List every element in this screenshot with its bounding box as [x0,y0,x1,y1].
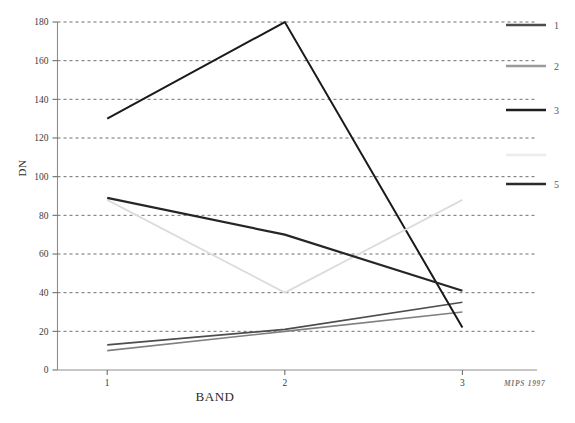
series-line-1 [107,302,462,345]
line-chart: 020406080100120140160180 123 BAND DN 123… [0,0,575,423]
legend-label-5: 5 [554,179,559,190]
watermark-label: MIPS 1997 [503,379,546,388]
y-tick-label: 180 [34,17,49,27]
y-tick-label: 40 [39,288,49,298]
y-tick-label: 120 [34,133,49,143]
y-axis-title: DN [16,159,28,176]
y-tick-label: 20 [39,327,49,337]
series-line-3 [107,22,462,327]
y-tick-label: 100 [34,172,49,182]
x-tick-label: 3 [460,378,465,388]
legend: 1235 [506,20,559,190]
series-group [107,22,462,351]
chart-container: 020406080100120140160180 123 BAND DN 123… [0,0,575,423]
y-tick-label: 0 [44,365,49,375]
y-tick-label: 140 [34,95,49,105]
x-axis: 123 [58,370,538,388]
y-tick-label: 80 [39,211,49,221]
series-line-5 [107,198,462,291]
legend-label-1: 1 [554,20,559,31]
y-tick-label: 60 [39,249,49,259]
gridlines [58,22,538,331]
y-tick-label: 160 [34,56,49,66]
y-axis: 020406080100120140160180 [34,17,57,375]
series-line-4 [107,200,462,293]
x-tick-label: 2 [282,378,287,388]
legend-label-2: 2 [554,61,559,72]
legend-label-3: 3 [554,105,559,116]
x-tick-label: 1 [105,378,110,388]
x-axis-title: BAND [195,389,234,404]
